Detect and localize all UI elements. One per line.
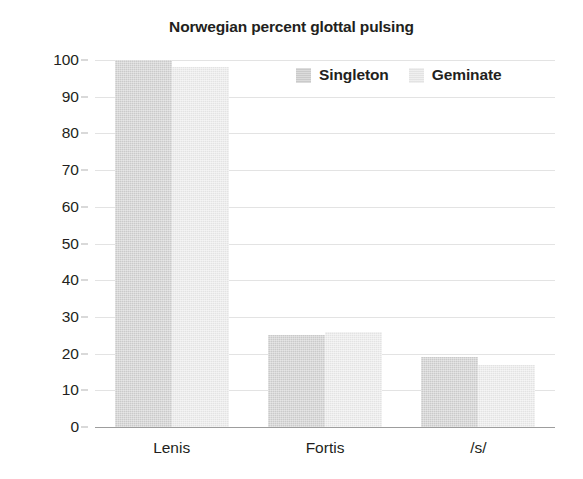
bar-chart: Norwegian percent glottal pulsing 100908… [0, 0, 583, 479]
bar-fortis-singleton [268, 335, 325, 427]
plot-area [95, 60, 555, 427]
bar-lenis-geminate [172, 67, 229, 427]
y-axis-tick-label: 90 [62, 88, 79, 106]
bars-layer [95, 60, 555, 427]
legend-swatch-icon [409, 68, 424, 83]
y-axis-tick-mark [81, 353, 88, 354]
y-axis-tick-label: 30 [62, 308, 79, 326]
y-axis-tick-mark [81, 60, 88, 61]
y-axis-tick-label: 20 [62, 345, 79, 363]
y-axis-tick-label: 0 [70, 418, 79, 436]
legend-item-geminate[interactable]: Geminate [409, 66, 502, 84]
x-axis-tick-label: Fortis [306, 439, 345, 457]
y-axis: 1009080706050403020100 [28, 60, 88, 427]
y-axis-tick-mark [81, 427, 88, 428]
bar-lenis-singleton [115, 60, 172, 427]
y-axis-tick-label: 60 [62, 198, 79, 216]
x-axis-tick-label: /s/ [470, 439, 486, 457]
bar-s-singleton [421, 357, 478, 427]
y-axis-tick-label: 50 [62, 235, 79, 253]
legend-label: Geminate [432, 66, 502, 84]
x-axis: LenisFortis/s/ [95, 428, 555, 468]
y-axis-tick-mark [81, 133, 88, 134]
chart-title: Norwegian percent glottal pulsing [0, 18, 583, 36]
y-axis-tick-mark [81, 280, 88, 281]
legend-item-singleton[interactable]: Singleton [296, 66, 389, 84]
y-axis-tick-label: 80 [62, 124, 79, 142]
y-axis-tick-mark [81, 96, 88, 97]
chart-legend: SingletonGeminate [296, 66, 502, 84]
y-axis-tick-mark [81, 170, 88, 171]
legend-label: Singleton [319, 66, 389, 84]
y-axis-tick-mark [81, 243, 88, 244]
y-axis-tick-mark [81, 316, 88, 317]
bar-s-geminate [478, 365, 535, 427]
bar-fortis-geminate [325, 332, 382, 427]
x-axis-tick-label: Lenis [153, 439, 190, 457]
y-axis-tick-mark [81, 206, 88, 207]
y-axis-tick-mark [81, 390, 88, 391]
y-axis-tick-label: 10 [62, 381, 79, 399]
y-axis-tick-label: 70 [62, 161, 79, 179]
y-axis-tick-label: 40 [62, 271, 79, 289]
y-axis-tick-label: 100 [53, 51, 79, 69]
legend-swatch-icon [296, 68, 311, 83]
